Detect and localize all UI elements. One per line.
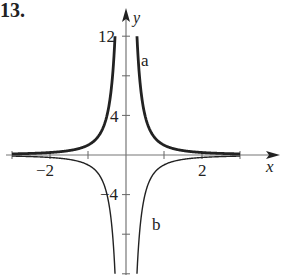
- curve-label-b: b: [152, 216, 161, 233]
- curve-a: [12, 36, 115, 154]
- y-axis-label: y: [133, 10, 140, 26]
- graph: [0, 0, 288, 275]
- tick-label-2: 2: [198, 162, 207, 179]
- problem-number: 13.: [0, 0, 25, 20]
- curve-a: [137, 36, 240, 154]
- tick-label-12: 12: [98, 28, 115, 45]
- curve-label-a: a: [141, 52, 149, 69]
- tick-label-neg4: −4: [100, 186, 118, 203]
- curve-b: [12, 156, 115, 274]
- x-axis-label: x: [266, 158, 274, 175]
- tick-label-4: 4: [110, 108, 119, 125]
- tick-label-neg2: −2: [36, 162, 54, 179]
